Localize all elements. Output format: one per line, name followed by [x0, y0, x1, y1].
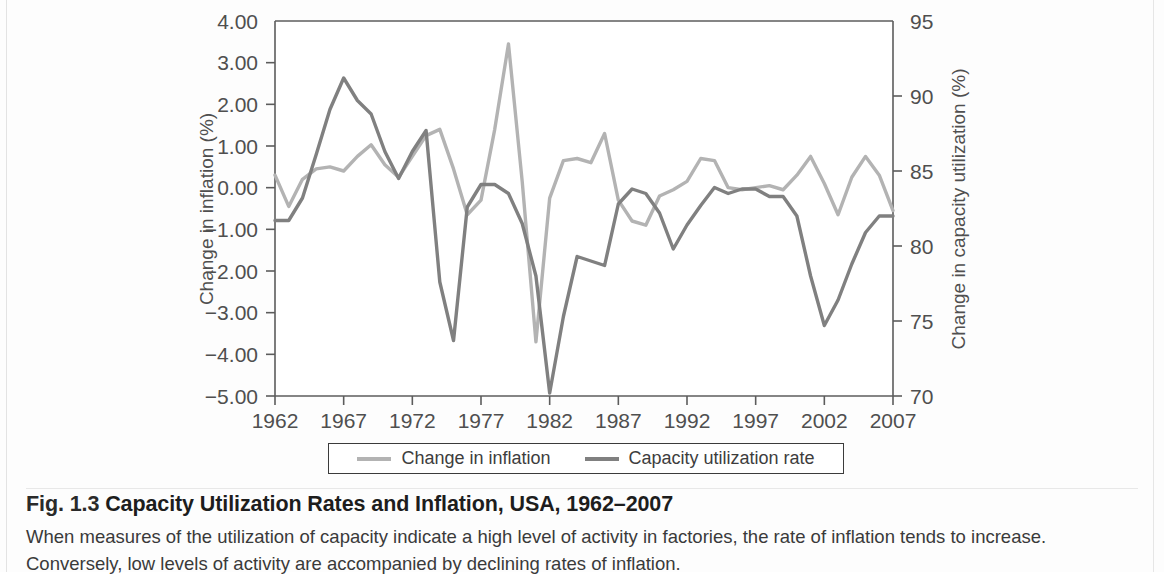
x-axis-tick-label: 2002 [801, 409, 848, 432]
y-axis-left-tick-label: −4.00 [205, 343, 258, 366]
y-axis-left-tick-label: 0.00 [217, 176, 258, 199]
y-axis-right-tick-label: 70 [910, 385, 933, 408]
line-chart: −5.00−4.00−3.00−2.00−1.000.001.002.003.0… [0, 0, 1164, 478]
figure-caption: Fig. 1.3 Capacity Utilization Rates and … [26, 492, 1138, 578]
y-axis-left-tick-label: 2.00 [217, 93, 258, 116]
y-axis-left-tick-label: −5.00 [205, 385, 258, 408]
legend-label: Change in inflation [401, 448, 550, 469]
y-axis-left-title: Change in inflation (%) [196, 113, 217, 305]
y-axis-right-ticks: 707580859095 [893, 10, 933, 408]
x-axis-tick-label: 1992 [664, 409, 711, 432]
plot-area [275, 21, 893, 396]
x-axis-tick-label: 1977 [458, 409, 505, 432]
y-axis-right-tick-label: 90 [910, 85, 933, 108]
y-axis-right-tick-label: 85 [910, 160, 933, 183]
y-axis-left-tick-label: 4.00 [217, 10, 258, 33]
caption-divider [26, 488, 1138, 489]
x-axis-tick-label: 1987 [595, 409, 642, 432]
y-axis-right-title: Change in capacity utilization (%) [948, 69, 969, 350]
x-axis-tick-label: 1982 [526, 409, 573, 432]
legend-swatch-icon [357, 457, 391, 461]
caption-title-text: Capacity Utilization Rates and Inflation… [105, 492, 673, 516]
x-axis-tick-label: 1962 [252, 409, 299, 432]
figure-number: Fig. 1.3 [26, 492, 99, 516]
legend-label: Capacity utilization rate [629, 448, 815, 469]
legend-item-change-in-inflation[interactable]: Change in inflation [357, 448, 550, 469]
legend-item-capacity-utilization-rate[interactable]: Capacity utilization rate [585, 448, 815, 469]
chart-legend: Change in inflation Capacity utilization… [328, 443, 844, 474]
y-axis-left-tick-label: 1.00 [217, 135, 258, 158]
caption-body-text: When measures of the utilization of capa… [26, 524, 1138, 578]
chart-figure: −5.00−4.00−3.00−2.00−1.000.001.002.003.0… [0, 0, 1164, 478]
y-axis-right-tick-label: 75 [910, 310, 933, 333]
x-axis-tick-label: 2007 [870, 409, 917, 432]
y-axis-right-tick-label: 80 [910, 235, 933, 258]
x-axis-ticks: 1962196719721977198219871992199720022007 [252, 396, 917, 432]
legend-swatch-icon [585, 457, 619, 461]
caption-title-line: Fig. 1.3 Capacity Utilization Rates and … [26, 492, 1138, 517]
plot-background [275, 21, 893, 396]
x-axis-tick-label: 1967 [320, 409, 367, 432]
y-axis-right-tick-label: 95 [910, 10, 933, 33]
x-axis-tick-label: 1997 [732, 409, 779, 432]
y-axis-left-tick-label: 3.00 [217, 51, 258, 74]
x-axis-tick-label: 1972 [389, 409, 436, 432]
